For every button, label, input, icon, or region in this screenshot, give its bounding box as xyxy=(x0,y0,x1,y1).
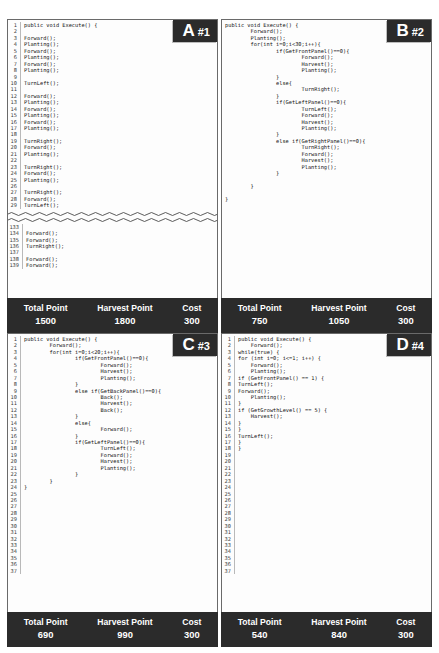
badge-number: #3 xyxy=(198,341,210,352)
line-number: 37 xyxy=(8,568,21,574)
harvest-point-label: Harvest Point xyxy=(297,302,381,314)
panel-footer: Total PointHarvest PointCost7501050300 xyxy=(221,298,432,333)
code-area[interactable]: B#2public void Execute() { Forward(); Pl… xyxy=(221,19,432,298)
line-text: TurnLeft(); xyxy=(24,80,59,86)
line-text: } xyxy=(24,478,53,484)
cost-value: 300 xyxy=(167,628,217,641)
cost-label: Cost xyxy=(381,616,431,628)
total-point-label: Total Point xyxy=(8,302,83,314)
code-line: 37 xyxy=(8,568,217,574)
total-point-value: 690 xyxy=(8,628,83,641)
badge-letter: C xyxy=(182,336,194,353)
truncation-break-icon xyxy=(8,210,217,223)
badge-number: #2 xyxy=(412,27,424,38)
code-area[interactable]: D#41public void Execute() {2 Forward();3… xyxy=(221,333,432,612)
harvest-point-label: Harvest Point xyxy=(297,616,381,628)
code-line: 139Forward(); xyxy=(8,262,217,268)
line-number: 139 xyxy=(8,262,23,268)
cost-label: Cost xyxy=(167,616,217,628)
harvest-point-label: Harvest Point xyxy=(83,616,167,628)
code-lines: 1public void Execute() {2 Forward();3 fo… xyxy=(8,334,217,574)
cost-value: 300 xyxy=(381,628,431,641)
line-text: Planting(); xyxy=(238,394,286,400)
badge-number: #1 xyxy=(198,27,210,38)
code-area[interactable]: A#11public void Execute() {23Forward();4… xyxy=(7,19,218,298)
line-number: 37 xyxy=(222,568,235,574)
harvest-point-value: 840 xyxy=(297,628,381,641)
line-text: Planting(); xyxy=(24,177,59,183)
line-text: Planting(); xyxy=(24,67,59,73)
panel-badge: D#4 xyxy=(387,334,431,356)
code-panel-b: B#2public void Execute() { Forward(); Pl… xyxy=(221,19,432,333)
harvest-point-value: 1800 xyxy=(83,314,167,327)
harvest-point-value: 990 xyxy=(83,628,167,641)
line-text: } xyxy=(238,445,241,451)
line-text: TurnLeft(); xyxy=(24,202,59,208)
badge-letter: D xyxy=(396,336,408,353)
total-point-label: Total Point xyxy=(222,616,297,628)
badge-letter: B xyxy=(396,22,408,39)
line-text: public void Execute() { xyxy=(24,22,97,28)
line-text: Planting(); xyxy=(24,125,59,131)
badge-number: #4 xyxy=(412,341,424,352)
panel-badge: C#3 xyxy=(173,334,217,356)
line-text: Planting(); xyxy=(24,151,59,157)
total-point-value: 1500 xyxy=(8,314,83,327)
code-area[interactable]: C#31public void Execute() {2 Forward();3… xyxy=(7,333,218,612)
code-panel-c: C#31public void Execute() {2 Forward();3… xyxy=(7,333,218,647)
line-text: } xyxy=(24,484,27,490)
panel-footer: Total PointHarvest PointCost15001800300 xyxy=(7,298,218,333)
total-point-label: Total Point xyxy=(222,302,297,314)
total-point-value: 540 xyxy=(222,628,297,641)
code-lines: public void Execute() { Forward(); Plant… xyxy=(222,20,431,202)
code-line: 37 xyxy=(222,568,431,574)
panel-footer: Total PointHarvest PointCost540840300 xyxy=(221,612,432,647)
line-text: Harvest(); xyxy=(238,413,283,419)
code-line: } xyxy=(225,196,431,202)
code-line: 29TurnLeft(); xyxy=(8,202,217,208)
cost-value: 300 xyxy=(381,314,431,327)
code-lines: 1public void Execute() {2 Forward();3whi… xyxy=(222,334,431,574)
code-lines: 1public void Execute() {23Forward();4Pla… xyxy=(8,20,217,269)
panel-footer: Total PointHarvest PointCost690990300 xyxy=(7,612,218,647)
total-point-label: Total Point xyxy=(8,616,83,628)
badge-letter: A xyxy=(182,22,194,39)
total-point-value: 750 xyxy=(222,314,297,327)
cost-label: Cost xyxy=(381,302,431,314)
code-panel-a: A#11public void Execute() {23Forward();4… xyxy=(7,19,218,333)
cost-label: Cost xyxy=(167,302,217,314)
cost-value: 300 xyxy=(167,314,217,327)
line-text: TurnLeft(); xyxy=(238,433,273,439)
code-panel-d: D#41public void Execute() {2 Forward();3… xyxy=(221,333,432,647)
line-number: 29 xyxy=(8,202,21,208)
screenshot-root: A#11public void Execute() {23Forward();4… xyxy=(0,0,439,653)
panel-badge: B#2 xyxy=(387,20,431,42)
line-text: Forward(); xyxy=(26,262,58,268)
code-panel-grid: A#11public void Execute() {23Forward();4… xyxy=(7,19,432,647)
line-text: TurnRight(); xyxy=(26,243,64,249)
harvest-point-value: 1050 xyxy=(297,314,381,327)
panel-badge: A#1 xyxy=(173,20,217,42)
harvest-point-label: Harvest Point xyxy=(83,302,167,314)
